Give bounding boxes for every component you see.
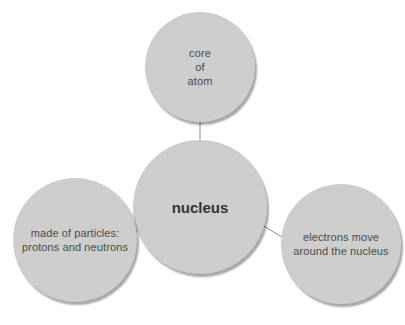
concept-map: core of atom nucleus made of particles: … — [0, 0, 405, 325]
node-right-label: electrons move around the nucleus — [293, 230, 388, 258]
node-left: made of particles: protons and neutrons — [13, 178, 137, 302]
node-top-label: core of atom — [188, 46, 213, 88]
node-left-label: made of particles: protons and neutrons — [22, 226, 128, 254]
node-center-label: nucleus — [172, 199, 229, 216]
node-top: core of atom — [145, 12, 255, 122]
node-center: nucleus — [133, 140, 267, 274]
node-right: electrons move around the nucleus — [281, 184, 401, 304]
